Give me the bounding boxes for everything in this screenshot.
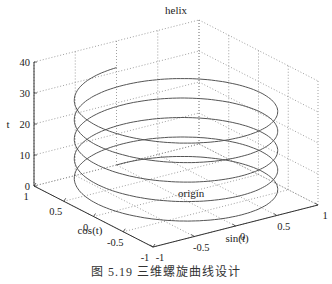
y-tick-label: -0.5 — [193, 242, 210, 253]
grid-lines — [34, 20, 318, 247]
tick-labels: 01020304010.50-0.5-1-1-0.500.51 — [20, 57, 328, 263]
z-tick-label: 10 — [20, 150, 31, 161]
x-tick-label: 1 — [23, 191, 28, 202]
z-tick-label: 30 — [20, 88, 31, 99]
z-tick-label: 20 — [20, 119, 31, 130]
axes — [34, 62, 318, 247]
helix-curve — [74, 68, 277, 222]
z-axis-label: t — [6, 118, 9, 130]
x-tick — [94, 214, 96, 217]
chart-title: helix — [165, 4, 187, 16]
grid-line — [117, 165, 236, 226]
y-tick-label: 0.5 — [277, 221, 290, 232]
y-tick-label: 1 — [322, 210, 327, 221]
x-tick-label: 0.5 — [49, 206, 62, 217]
origin-annotation: origin — [178, 187, 205, 199]
x-tick — [123, 229, 125, 232]
figure-caption: 图 5.19 三维螺旋曲线设计 — [0, 262, 332, 280]
helix-chart: 01020304010.50-0.5-1-1-0.500.51 helix co… — [0, 0, 332, 284]
grid-line — [199, 82, 318, 143]
y-tick — [191, 235, 194, 237]
y-tick — [233, 224, 236, 226]
z-tick-label: 40 — [20, 57, 31, 68]
x-tick — [64, 198, 66, 201]
y-tick — [274, 214, 277, 216]
y-axis-label: sin(t) — [225, 232, 249, 245]
grid-line — [158, 155, 277, 216]
x-axis-label: cos(t) — [77, 224, 102, 237]
y-tick — [315, 203, 318, 205]
x-tick-label: -0.5 — [107, 237, 124, 248]
